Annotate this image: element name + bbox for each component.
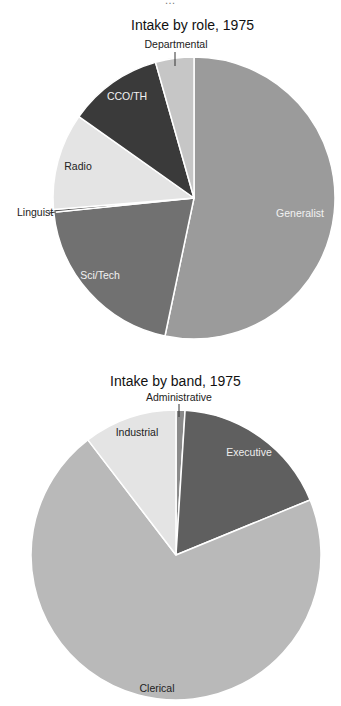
slice-label-executive: Executive bbox=[226, 446, 272, 458]
pie-slices bbox=[31, 410, 321, 700]
slice-label-administrative: Administrative bbox=[146, 391, 212, 403]
pie-chart-band: AdministrativeExecutiveClericalIndustria… bbox=[0, 0, 341, 706]
slice-label-clerical: Clerical bbox=[139, 682, 174, 694]
slice-label-industrial: Industrial bbox=[116, 426, 159, 438]
